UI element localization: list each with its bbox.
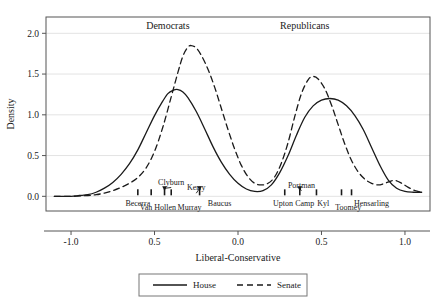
panel-title-democrats: Democrats (146, 20, 189, 31)
legend-label-senate: Senate (277, 280, 301, 290)
annotation-label-murray: Murray (178, 203, 202, 212)
ytick-label-0: 0.0 (27, 192, 39, 202)
xtick-label-0: -1.0 (64, 237, 79, 247)
panel-title-republicans: Republicans (280, 20, 330, 31)
density-chart: 0.00.51.01.52.0Density-1.00.50.00.51.0Li… (0, 0, 446, 308)
annotation-label-baucus: Baucus (208, 199, 232, 208)
annotation-label-portman: Portman (288, 181, 315, 190)
ytick-label-3: 1.5 (27, 69, 39, 79)
annotation-label-kerry: Kerry (187, 183, 206, 192)
xtick-label-1: 0.5 (149, 237, 161, 247)
y-axis-title: Density (5, 98, 16, 129)
x-axis-title: Liberal-Conservative (196, 252, 282, 263)
annotation-label-clyburn: Clyburn (158, 178, 184, 187)
xtick-label-2: 0.0 (232, 237, 244, 247)
ytick-label-4: 2.0 (27, 29, 39, 39)
annotation-label-upton: Upton (273, 199, 293, 208)
xtick-label-4: 1.0 (399, 237, 411, 247)
annotation-label-camp: Camp (295, 199, 314, 208)
annotation-label-kyl: Kyl (317, 199, 330, 208)
plot-background (46, 17, 430, 211)
ytick-label-2: 1.0 (27, 110, 39, 120)
annotation-label-hensarling: Hensarling (354, 199, 389, 208)
ytick-label-1: 0.5 (27, 151, 39, 161)
annotation-label-van-hollen: Van Hollen (140, 203, 176, 212)
legend-label-house: House (193, 280, 216, 290)
xtick-label-3: 0.5 (316, 237, 328, 247)
